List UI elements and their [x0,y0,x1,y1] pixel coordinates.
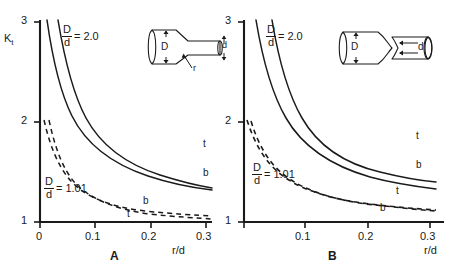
curve-label-t-solid: t [203,139,206,149]
panel-a-plot [0,0,228,268]
x-axis-label: r/d [172,245,185,256]
curve-label-t-dashed: t [396,186,399,196]
x-tick-label-0.2: 0.2 [141,231,156,242]
y-tick-label-1: 1 [225,215,231,226]
y-tick-label-2: 2 [21,115,27,126]
curve-label-t-solid: t [416,131,419,141]
ratio-value: = 2.0 [278,30,303,42]
panel-a: Kt 3 2 1 0 0.1 0.2 0.3 r/d D d = 2.0 D d… [0,0,228,268]
ratio-value: = 2.0 [74,30,99,42]
panel-a-curves-dashed [44,120,212,219]
y-tick-label-3: 3 [21,15,27,26]
x-tick-label-0.3: 0.3 [196,231,211,242]
inset-label-D: D [161,42,168,52]
x-tick-label-0.1: 0.1 [295,231,310,242]
curve-label-b-dashed: b [143,196,149,206]
y-tick-label-2: 2 [225,115,231,126]
ratio-denominator: d [266,37,276,49]
y-tick-label-3: 3 [225,15,231,26]
ratio-numerator: D [252,162,262,175]
figure-root: Kt 3 2 1 0 0.1 0.2 0.3 r/d D d = 2.0 D d… [0,0,456,268]
x-axis-label: r/d [424,245,437,256]
x-tick-label-0.2: 0.2 [358,231,373,242]
inset-label-d: d [418,42,424,52]
x-tick-label-0: 0 [36,231,42,242]
inset-label-r: r [193,64,196,73]
ratio-annotation-bottom: D d = 1.01 [252,162,295,186]
ratio-denominator: d [252,175,262,187]
inset-stepped-shaft-flat-fillet [148,30,226,68]
panel-b: 3 2 1 0.1 0.2 0.3 r/d D d = 2.0 D d = 1.… [228,0,456,268]
curve-label-b-dashed: b [380,203,386,213]
curve-label-b-solid: b [416,160,422,170]
curve-label-t-dashed: t [127,209,130,219]
ratio-value: = 1.01 [56,182,87,194]
ratio-denominator: d [62,37,72,49]
ratio-annotation-bottom: D d = 1.01 [44,176,87,200]
panel-b-axes [238,20,444,228]
y-tick-label-1: 1 [21,215,27,226]
x-tick-label-0.3: 0.3 [420,231,435,242]
ratio-denominator: d [44,189,54,201]
ratio-value: = 1.01 [264,168,295,180]
curve-label-b-solid: b [203,168,209,178]
ratio-annotation-top: D d = 2.0 [266,24,303,48]
panel-label-a: A [110,250,119,262]
ratio-numerator: D [266,24,276,37]
inset-label-d: d [222,41,227,50]
y-axis-label: Kt [4,33,14,47]
inset-label-D: D [351,42,358,52]
ratio-annotation-top: D d = 2.0 [62,24,99,48]
x-tick-label-0.1: 0.1 [85,231,100,242]
panel-label-b: B [328,250,337,262]
ratio-numerator: D [62,24,72,37]
ratio-numerator: D [44,176,54,189]
